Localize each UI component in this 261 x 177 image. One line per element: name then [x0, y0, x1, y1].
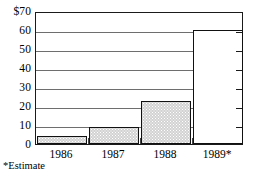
x-tick-label-2: 1988 [139, 148, 191, 161]
y-axis-right-tick-10 [236, 127, 242, 128]
plot-area [35, 12, 243, 145]
y-axis-right-tick-50 [236, 51, 242, 52]
bar-chart: 0102030405060$70 1986198719881989* *Esti… [0, 0, 261, 177]
y-tick-label-70: $70 [0, 6, 35, 18]
bar-1988 [141, 101, 191, 144]
x-axis: 1986198719881989* [35, 148, 243, 164]
y-tick-label-60: 60 [0, 25, 35, 37]
chart-footnote: *Estimate [3, 160, 45, 172]
y-tick-label-30: 30 [0, 82, 35, 94]
x-tick-label-1: 1987 [87, 148, 139, 161]
y-tick-label-40: 40 [0, 63, 35, 75]
y-tick-label-10: 10 [0, 120, 35, 132]
bar-1987 [89, 127, 139, 144]
x-tick-label-3: 1989* [191, 148, 243, 161]
y-tick-label-50: 50 [0, 44, 35, 56]
y-tick-label-20: 20 [0, 101, 35, 113]
y-axis-right-tick-20 [236, 108, 242, 109]
y-axis-right-tick-30 [236, 89, 242, 90]
y-axis: 0102030405060$70 [0, 0, 35, 177]
y-axis-right-tick-60 [236, 32, 242, 33]
y-tick-label-0: 0 [0, 139, 35, 151]
bar-1986 [37, 136, 87, 144]
y-axis-right-tick-40 [236, 70, 242, 71]
